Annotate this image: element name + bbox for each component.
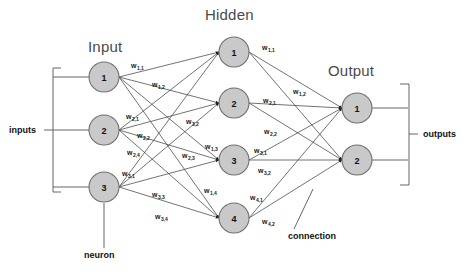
- hidden-node-2[interactable]: 2: [219, 88, 249, 118]
- weight-label-w3-1-ih: w3,1: [122, 170, 134, 177]
- neuron-label: neuron: [84, 250, 115, 260]
- output-node-1-label: 1: [354, 104, 359, 114]
- connection-label: connection: [288, 231, 336, 241]
- weight-label-w4-2-ho: w4,2: [262, 218, 274, 225]
- weight-label-w1-3-ih: w1,3: [205, 143, 217, 150]
- output-node-2[interactable]: 2: [342, 145, 372, 175]
- hidden-node-1[interactable]: 1: [219, 37, 249, 67]
- connection-leader-line: [294, 189, 313, 229]
- weight-label-w2-4-ih: w2,4: [127, 149, 139, 156]
- input-stub-lines: [53, 77, 89, 187]
- output-layer-title: Output: [328, 62, 374, 79]
- input-node-1-label: 1: [101, 73, 106, 83]
- weight-label-w1-2-ho: w1,2: [293, 88, 305, 95]
- weight-label-w1-4-ih: w1,4: [204, 187, 216, 194]
- hidden-node-4[interactable]: 4: [219, 203, 249, 233]
- weight-label-w2-2-ho: w2,2: [264, 128, 276, 135]
- input-node-1[interactable]: 1: [89, 62, 119, 92]
- weight-label-w3-3-ih: w3,3: [152, 191, 164, 198]
- hidden-node-1-label: 1: [231, 48, 236, 58]
- hidden-layer-title: Hidden: [205, 6, 254, 23]
- output-stub-lines: [372, 108, 408, 160]
- output-node-1[interactable]: 1: [342, 93, 372, 123]
- weight-label-w2-1-ih: w2,1: [126, 113, 138, 120]
- hidden-node-3-label: 3: [231, 156, 236, 166]
- weight-label-w1-2-ih: w1,2: [152, 81, 164, 88]
- outputs-label: outputs: [423, 129, 456, 139]
- weight-label-w1-1-ih: w1,1: [131, 62, 143, 69]
- neural-network-diagram: 1 2 3 1 2 3 4 1: [0, 0, 472, 276]
- weight-label-w2-3-ih: w2,3: [182, 152, 194, 159]
- network-graphics: 1 2 3 1 2 3 4 1: [0, 0, 472, 276]
- input-node-3[interactable]: 3: [89, 172, 119, 202]
- hidden-node-4-label: 4: [231, 214, 236, 224]
- input-layer-title: Input: [88, 38, 122, 55]
- input-node-3-label: 3: [101, 183, 106, 193]
- weight-label-w3-2-ih: w3,2: [186, 118, 198, 125]
- weight-label-w2-1-ho: w2,1: [263, 97, 275, 104]
- output-node-2-label: 2: [354, 156, 359, 166]
- hidden-node-3[interactable]: 3: [219, 145, 249, 175]
- weight-label-w3-1-ho: w3,1: [254, 147, 266, 154]
- weight-label-w3-4-ih: w3,4: [155, 213, 167, 220]
- inputs-label: inputs: [9, 125, 36, 135]
- weight-label-w4-1-ho: w4,1: [250, 194, 262, 201]
- weight-label-w2-2-ih: w2,2: [137, 132, 149, 139]
- input-node-2-label: 2: [101, 126, 106, 136]
- weight-label-w1-1-ho: w1,1: [262, 44, 274, 51]
- outputs-bracket: [400, 84, 418, 185]
- weight-label-w3-2-ho: w3,2: [258, 167, 270, 174]
- hidden-node-2-label: 2: [231, 99, 236, 109]
- input-node-2[interactable]: 2: [89, 115, 119, 145]
